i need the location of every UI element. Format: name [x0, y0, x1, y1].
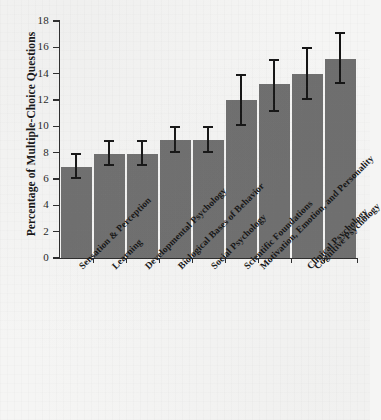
- y-axis-title: Percentage of Multiple-Choice Questions: [25, 19, 37, 249]
- y-tick-label-10: 10: [9, 119, 49, 131]
- error-bar-cap-bottom: [104, 164, 114, 166]
- y-tick-0: [53, 257, 59, 258]
- error-bar-stem: [75, 153, 77, 179]
- error-bar-cap-bottom: [335, 82, 345, 84]
- error-bar-stem: [108, 140, 110, 166]
- error-bar-stem: [207, 126, 209, 152]
- x-tick-8: [357, 258, 358, 263]
- y-tick-label-14: 14: [9, 67, 49, 79]
- error-bar: [226, 74, 257, 127]
- y-tick-16: [53, 47, 59, 48]
- y-tick-8: [53, 152, 59, 153]
- y-tick-label-0: 0: [9, 251, 49, 263]
- error-bar: [325, 32, 356, 85]
- error-bar-stem: [339, 32, 341, 85]
- y-tick-label-4: 4: [9, 198, 49, 210]
- error-bar-cap-bottom: [302, 98, 312, 100]
- error-bar-cap-bottom: [203, 151, 213, 153]
- y-tick-label-12: 12: [9, 93, 49, 105]
- error-bar-cap-bottom: [269, 110, 279, 112]
- y-tick-label-16: 16: [9, 40, 49, 52]
- error-bar: [127, 140, 158, 166]
- error-bar-stem: [141, 140, 143, 166]
- y-tick-4: [53, 205, 59, 206]
- error-bar-stem: [273, 59, 275, 112]
- error-bar: [160, 126, 191, 152]
- error-bar-cap-bottom: [236, 124, 246, 126]
- error-bar: [61, 153, 92, 179]
- y-tick-2: [53, 231, 59, 232]
- y-tick-12: [53, 99, 59, 100]
- error-bar-stem: [174, 126, 176, 152]
- y-tick-label-18: 18: [9, 14, 49, 26]
- error-bar-stem: [306, 47, 308, 100]
- y-tick-label-6: 6: [9, 172, 49, 184]
- error-bar-cap-bottom: [71, 177, 81, 179]
- error-bar: [259, 59, 290, 112]
- y-tick-10: [53, 126, 59, 127]
- error-bar-cap-bottom: [137, 164, 147, 166]
- y-tick-14: [53, 73, 59, 74]
- error-bar: [193, 126, 224, 152]
- error-bar-stem: [240, 74, 242, 127]
- bar: [61, 167, 92, 258]
- y-tick-label-8: 8: [9, 146, 49, 158]
- y-tick-18: [53, 20, 59, 21]
- y-tick-label-2: 2: [9, 225, 49, 237]
- y-tick-6: [53, 178, 59, 179]
- error-bar: [292, 47, 323, 100]
- error-bar: [94, 140, 125, 166]
- error-bar-cap-bottom: [170, 151, 180, 153]
- x-tick-6: [291, 258, 292, 263]
